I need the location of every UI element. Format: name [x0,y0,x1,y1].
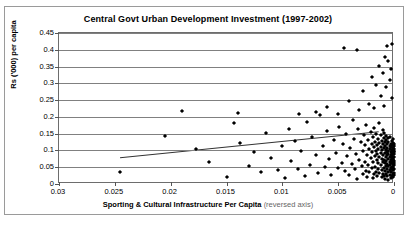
x-axis-tick [227,182,228,186]
trendline [59,33,392,182]
data-point [349,161,353,165]
gridline [59,167,392,168]
scatter-chart: Central Govt Urban Development Investmen… [0,0,416,230]
gridline [59,83,392,84]
y-axis-title: Rs ('000) per capita [9,0,18,120]
gridline [59,33,392,34]
y-axis-tick [55,167,59,168]
gridline [59,50,392,51]
y-axis-tick-label: 0.35 [39,61,54,70]
y-axis-tick-label: 0.2 [44,111,54,120]
data-point [207,159,211,163]
x-axis-tick-label: 0.005 [328,187,347,196]
x-axis-tick [59,182,60,186]
x-axis-tick [115,182,116,186]
y-axis-tick [55,33,59,34]
y-axis-tick-label: 0.3 [44,78,54,87]
x-axis-tick-label: 0.02 [162,187,177,196]
x-axis-title-note: (reversed axis) [264,200,314,209]
gridline [59,150,392,151]
data-point [339,160,343,164]
y-axis-tick-label: 0.4 [44,44,54,53]
x-axis-tick [338,182,339,186]
y-axis-tick [55,134,59,135]
y-axis-tick [55,117,59,118]
y-axis-tick [55,83,59,84]
y-axis-tick-label: 0.05 [39,162,54,171]
x-axis-tick-label: 0.03 [51,187,66,196]
x-axis-tick [171,182,172,186]
y-axis-tick [55,50,59,51]
y-axis-tick [55,67,59,68]
x-axis-tick-label: 0 [391,187,395,196]
gridline [59,134,392,135]
chart-title: Central Govt Urban Development Investmen… [0,14,416,24]
y-axis-tick-label: 0.1 [44,145,54,154]
x-axis-tick-label: 0.01 [274,187,289,196]
plot-area [58,32,393,183]
data-point [389,66,393,70]
y-axis-tick-labels: 00.050.10.150.20.250.30.350.40.45 [18,32,54,183]
y-axis-tick [55,150,59,151]
x-axis-tick-label: 0.025 [104,187,123,196]
y-axis-tick-label: 0.45 [39,28,54,37]
x-axis-tick [282,182,283,186]
x-axis-tick [394,182,395,186]
gridline [59,100,392,101]
y-axis-tick [55,100,59,101]
x-axis-title-main: Sporting & Cultural Infrastructure Per C… [103,200,262,209]
y-axis-tick-label: 0.25 [39,95,54,104]
x-axis-tick-labels: 0.030.0250.020.0150.010.0050 [0,187,416,199]
y-axis-tick-label: 0.15 [39,128,54,137]
gridline [59,67,392,68]
x-axis-title: Sporting & Cultural Infrastructure Per C… [0,200,416,209]
gridline [59,117,392,118]
x-axis-tick-label: 0.015 [216,187,235,196]
